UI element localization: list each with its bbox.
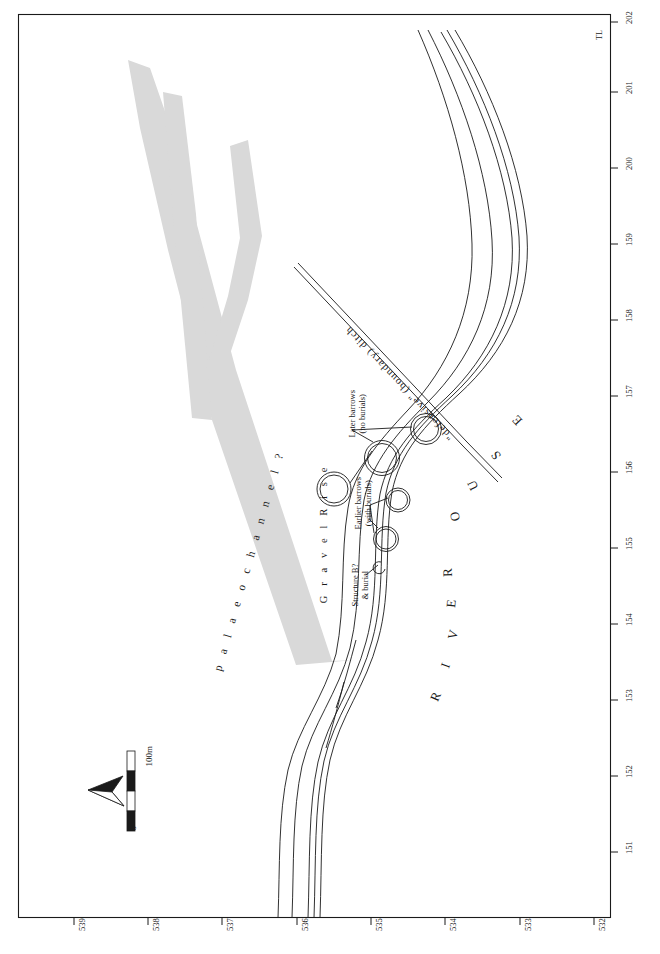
right-axis-tick-label: 151 <box>625 841 634 854</box>
right-axis-tick-label: 202 <box>625 11 634 24</box>
right-axis-tick-label: 156 <box>625 461 634 474</box>
bottom-axis-tick-label: 538 <box>152 918 161 931</box>
right-axis-ticks <box>610 22 618 852</box>
gravel-rise-label-text: G r a v e l R i s e <box>318 464 329 603</box>
scale-bar-max-label: 100m <box>145 746 154 767</box>
structure-b-label: Structure B? & burial <box>351 564 370 607</box>
bottom-axis-tick-label: 535 <box>375 918 384 931</box>
map-border <box>19 15 611 918</box>
right-axis-tick-label: 201 <box>625 81 634 94</box>
bottom-axis-tick-label: 539 <box>78 918 87 931</box>
bottom-axis-tick-label: 537 <box>226 918 235 931</box>
scale-bar-min-text: 0 <box>128 826 138 831</box>
bottom-axis-tick-label: 532 <box>598 918 607 931</box>
right-axis-tick-label: 152 <box>625 765 634 778</box>
map-frame-layer <box>0 0 660 954</box>
bottom-axis-tick-label: 534 <box>449 918 458 931</box>
right-axis-tick-label: 200 <box>625 157 634 170</box>
scale-bar-max-text: 100m <box>144 746 154 767</box>
earlier-barrows-label: Earlier barrows (with burials) <box>354 477 373 530</box>
later-barrows-line2: (no burials) <box>357 390 367 437</box>
right-axis-tick-label: 154 <box>625 613 634 626</box>
bottom-axis-tick-label: 533 <box>524 918 533 931</box>
bottom-axis-tick-label: 536 <box>301 918 310 931</box>
site-plan-figure: p a l a e o c h a n n e l ? G r a v e l … <box>0 0 660 954</box>
scale-bar-min-label: 0 <box>129 826 138 831</box>
right-axis-tick-label: 153 <box>625 689 634 702</box>
right-axis-tick-label: 159 <box>625 233 634 246</box>
river-letter-e: E <box>444 599 458 608</box>
later-barrows-label: Later barrows (no burials) <box>348 390 367 437</box>
earlier-barrows-line2: (with burials) <box>363 477 373 530</box>
right-axis-tick-label: 157 <box>625 385 634 398</box>
gravel-rise-label: G r a v e l R i s e <box>319 464 330 603</box>
river-letter-r2: R <box>441 568 454 577</box>
structure-b-line2: & burial <box>360 564 370 607</box>
right-axis-tick-label: 158 <box>625 309 634 322</box>
frame-corner-label-text: TL <box>595 30 604 40</box>
frame-corner-label: TL <box>596 30 604 40</box>
right-axis-tick-label: 155 <box>625 537 634 550</box>
